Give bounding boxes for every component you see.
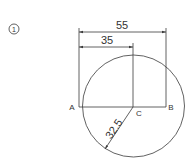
point-label-c: C — [136, 109, 142, 118]
problem-number-badge: 1 — [9, 24, 19, 34]
geometry-diagram: 1 55 35 32.5 A B C — [0, 0, 194, 167]
point-label-b: B — [168, 103, 173, 112]
point-label-a: A — [69, 103, 75, 112]
radius-label: 32.5 — [103, 117, 125, 141]
dimension-label-55: 55 — [116, 19, 128, 31]
problem-number: 1 — [12, 26, 16, 33]
dimension-label-35: 35 — [101, 34, 113, 46]
